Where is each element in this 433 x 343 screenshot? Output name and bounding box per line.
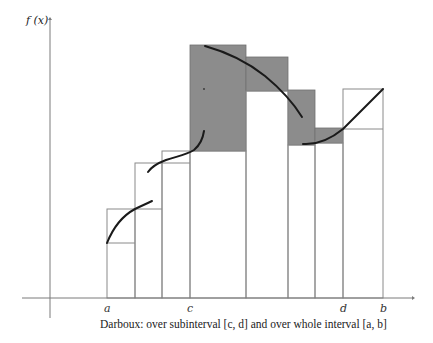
marker-dot	[203, 88, 205, 90]
outline-rect-7	[315, 143, 343, 298]
tick-label-a: a	[104, 302, 111, 315]
shaded-rect-4	[315, 128, 343, 143]
y-axis-label: f (x)	[25, 14, 48, 27]
outline-rect-4	[190, 151, 246, 298]
tick-label-c: c	[187, 302, 193, 315]
tick-label-b: b	[380, 302, 387, 315]
y-axis-arrow-icon	[48, 17, 52, 20]
outline-rect-2	[135, 163, 162, 298]
outline-rect-6	[288, 145, 315, 298]
shaded-rect-2	[246, 57, 288, 91]
outline-rect-3	[162, 151, 190, 298]
function-curve-segment-1	[107, 201, 152, 243]
tick-label-d: d	[340, 302, 347, 315]
darboux-diagram: f (x) a c d b Darboux: over subinterval …	[0, 0, 433, 343]
shaded-rect-1	[190, 45, 246, 151]
outline-rect-5	[246, 91, 288, 298]
outline-rect-8	[343, 89, 383, 298]
outline-rect-1-upper	[107, 209, 135, 298]
figure-caption: Darboux: over subinterval [c, d] and ove…	[100, 318, 387, 331]
x-axis-arrow-icon	[412, 296, 415, 300]
